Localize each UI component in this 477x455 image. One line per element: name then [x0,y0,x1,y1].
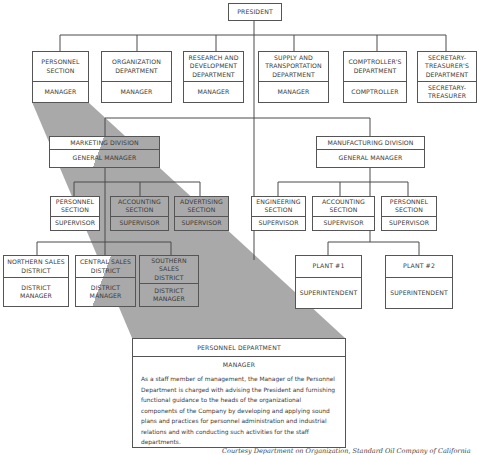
district-name: SOUTHERN SALES DISTRICT [140,256,198,283]
plant-1-box: PLANT #1 SUPERINTENDENT [295,255,362,309]
organization-department-box: ORGANIZATION DEPARTMENT MANAGER [101,51,172,103]
section-head: SUPERVISOR [51,216,99,230]
section-head: SUPERVISOR [111,216,168,230]
manufacturing-accounting-section-box: ACCOUNTING SECTION SUPERVISOR [312,196,375,231]
section-name: ENGINEERING SECTION [252,197,305,216]
dept-head: MANAGER [102,81,171,102]
section-head: SUPERVISOR [313,216,374,230]
section-name: ADVERTISING SECTION [175,197,228,216]
division-head: GENERAL MANAGER [317,149,424,167]
central-sales-district-box: CENTRAL SALES DISTRICT DISTRICT MANAGER [75,255,136,307]
division-head: GENERAL MANAGER [50,149,159,167]
dept-name: RESEARCH AND DEVELOPMENT DEPARTMENT [184,52,243,81]
section-name: PERSONNEL SECTION [382,197,436,216]
comptroller-department-box: COMPTROLLER'S DEPARTMENT COMPTROLLER [343,51,407,103]
detail-title: PERSONNEL DEPARTMENT [133,339,345,357]
district-head: DISTRICT MANAGER [76,277,135,306]
marketing-personnel-section-box: PERSONNEL SECTION SUPERVISOR [50,196,100,231]
research-development-box: RESEARCH AND DEVELOPMENT DEPARTMENT MANA… [183,51,244,103]
plant-name: PLANT #1 [296,256,361,277]
dept-head: MANAGER [259,81,328,102]
dept-head: MANAGER [184,81,243,102]
section-name: PERSONNEL SECTION [51,197,99,216]
dept-name: ORGANIZATION DEPARTMENT [102,52,171,81]
district-name: CENTRAL SALES DISTRICT [76,256,135,277]
plant-head: SUPERINTENDENT [296,277,361,308]
section-name: ACCOUNTING SECTION [111,197,168,216]
dept-name: SUPPLY AND TRANSPORTATION DEPARTMENT [259,52,328,81]
marketing-accounting-section-box: ACCOUNTING SECTION SUPERVISOR [110,196,169,231]
district-name: NORTHERN SALES DISTRICT [4,256,68,277]
dept-head: MANAGER [33,81,88,102]
dept-head: SECRETARY- TREASURER [418,81,476,102]
section-head: SUPERVISOR [175,216,228,230]
president-box: PRESIDENT [228,3,282,21]
northern-sales-district-box: NORTHERN SALES DISTRICT DISTRICT MANAGER [3,255,69,307]
dept-name: COMPTROLLER'S DEPARTMENT [344,52,406,81]
section-head: SUPERVISOR [382,216,436,230]
manufacturing-personnel-section-box: PERSONNEL SECTION SUPERVISOR [381,196,437,231]
dept-name: PERSONNEL SECTION [33,52,88,81]
division-name: MARKETING DIVISION [50,137,159,149]
supply-transportation-box: SUPPLY AND TRANSPORTATION DEPARTMENT MAN… [258,51,329,103]
plant-head: SUPERINTENDENT [386,277,452,308]
division-name: MANUFACTURING DIVISION [317,137,424,149]
detail-head: MANAGER [133,357,345,372]
dept-name: SECRETARY- TREASURER'S DEPARTMENT [418,52,476,81]
plant-2-box: PLANT #2 SUPERINTENDENT [385,255,453,309]
manufacturing-division-box: MANUFACTURING DIVISION GENERAL MANAGER [316,136,425,168]
president-label: PRESIDENT [229,4,281,20]
detail-description: As a staff member of management, the Man… [133,372,345,448]
source-caption: Courtesy Department on Organization, Sta… [222,447,471,455]
southern-sales-district-box: SOUTHERN SALES DISTRICT DISTRICT MANAGER [139,255,199,307]
advertising-section-box: ADVERTISING SECTION SUPERVISOR [174,196,229,231]
engineering-section-box: ENGINEERING SECTION SUPERVISOR [251,196,306,231]
dept-head: COMPTROLLER [344,81,406,102]
district-head: DISTRICT MANAGER [140,283,198,306]
district-head: DISTRICT MANAGER [4,277,68,306]
section-head: SUPERVISOR [252,216,305,230]
section-name: ACCOUNTING SECTION [313,197,374,216]
marketing-division-box: MARKETING DIVISION GENERAL MANAGER [49,136,160,168]
secretary-treasurer-box: SECRETARY- TREASURER'S DEPARTMENT SECRET… [417,51,477,103]
personnel-department-detail-box: PERSONNEL DEPARTMENT MANAGER As a staff … [132,338,346,448]
plant-name: PLANT #2 [386,256,452,277]
personnel-section-box: PERSONNEL SECTION MANAGER [32,51,89,103]
